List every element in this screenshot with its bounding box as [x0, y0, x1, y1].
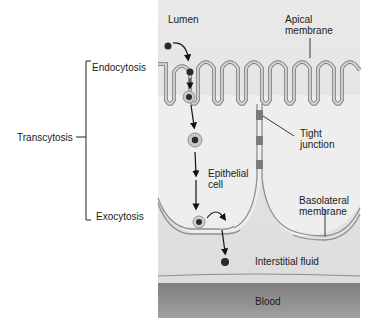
tight-line2: junction	[300, 139, 334, 150]
interstitial-fluid-label: Interstitial fluid	[255, 256, 319, 267]
basolateral-membrane-label: Basolateral membrane	[299, 195, 349, 217]
endocytosis-label: Endocytosis	[92, 62, 146, 73]
apical-line2: membrane	[285, 25, 333, 36]
tight-line1: Tight	[300, 128, 334, 139]
apical-membrane-label: Apical membrane	[285, 14, 333, 36]
epithelial-cell-label: Epithelial cell	[208, 168, 249, 190]
lumen-label: Lumen	[168, 14, 199, 25]
basolateral-line1: Basolateral	[299, 195, 349, 206]
transcytosis-label: Transcytosis	[17, 132, 73, 143]
transcytosis-bracket	[76, 61, 91, 220]
exocytosis-label: Exocytosis	[96, 211, 144, 222]
transcytosis-diagram	[0, 0, 371, 328]
tight-junction	[256, 110, 263, 169]
epithelial-line1: Epithelial	[208, 168, 249, 179]
epithelial-line2: cell	[208, 179, 249, 190]
blood-label: Blood	[255, 296, 281, 307]
basolateral-line2: membrane	[299, 206, 349, 217]
apical-line1: Apical	[285, 14, 333, 25]
tight-junction-label: Tight junction	[300, 128, 334, 150]
